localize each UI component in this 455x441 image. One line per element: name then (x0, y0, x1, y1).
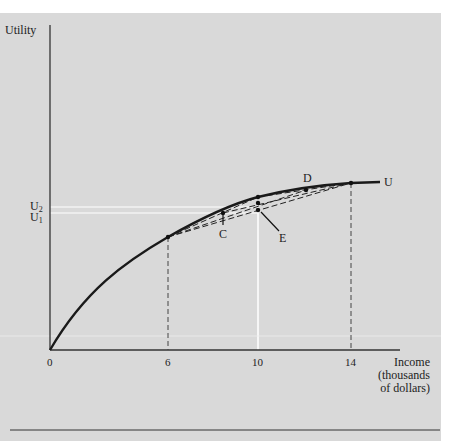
u1-label: U1 (30, 211, 43, 227)
x-tick-0: 0 (47, 356, 53, 369)
point-d-label: D (303, 172, 312, 185)
point-14 (349, 181, 353, 185)
point-c-label: C (219, 228, 227, 241)
chord-c-14 (223, 183, 351, 213)
point-e-label: E (279, 232, 286, 245)
y-axis-label: Utility (5, 24, 36, 37)
x-axis-label: Income (thousands of dollars) (340, 356, 430, 395)
x-tick-10: 10 (252, 356, 263, 369)
e-pointer (261, 212, 279, 231)
point-e (256, 208, 260, 212)
chord-6-10 (168, 197, 258, 237)
point-6 (166, 235, 170, 239)
point-10-curve (256, 195, 260, 199)
x-tick-6: 6 (165, 356, 171, 369)
point-10-upper (256, 201, 260, 205)
point-d (304, 188, 308, 192)
x-axis-label-line-3: of dollars) (340, 382, 430, 395)
curve-label: U (384, 176, 393, 189)
